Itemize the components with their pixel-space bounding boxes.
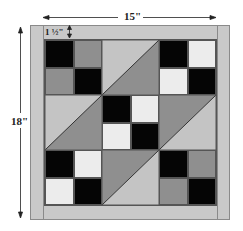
border-width-arrow [0,0,243,231]
